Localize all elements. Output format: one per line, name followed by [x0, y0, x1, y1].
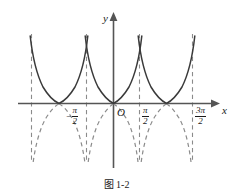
y-axis: [110, 12, 118, 168]
figure-container: y x O − π 2 π 2 3π 2 图 1-2: [0, 0, 233, 194]
x-axis-label: x: [222, 105, 227, 116]
fraction-numerator: π: [72, 106, 79, 117]
tan-negative-dashed-curves: [33, 104, 191, 162]
abs-tan-solid-curves: [30, 36, 195, 103]
fraction-denominator: 2: [195, 117, 206, 127]
fraction-denominator: 2: [72, 117, 79, 127]
fraction-denominator: 2: [142, 117, 149, 127]
solid-branch-3: [85, 36, 113, 103]
fraction-neg-half-pi: π 2: [72, 106, 79, 127]
origin-label: O: [117, 107, 125, 118]
fraction-three-half-pi: 3π 2: [195, 106, 206, 127]
dashed-branch-3: [88, 104, 113, 162]
y-axis-label: y: [103, 13, 108, 24]
minus-sign: −: [66, 112, 71, 121]
figure-caption: 图 1-2: [0, 176, 233, 191]
dashed-branch-1: [33, 104, 59, 162]
dashed-branch-6: [167, 104, 192, 162]
solid-branch-1: [30, 36, 59, 103]
fraction-numerator: 3π: [195, 106, 206, 117]
solid-branch-2: [59, 36, 88, 103]
tick-label-three-half-pi: 3π 2: [195, 106, 206, 127]
fraction-pos-half-pi: π 2: [142, 106, 149, 127]
tick-label-pos-half-pi: π 2: [142, 106, 149, 127]
tick-label-neg-half-pi: − π 2: [66, 106, 78, 127]
tangent-plot: [0, 0, 233, 194]
x-axis-arrow-icon: [211, 100, 220, 108]
solid-branch-6: [167, 36, 195, 103]
solid-branch-5: [138, 36, 166, 103]
y-axis-arrow-icon: [110, 12, 118, 21]
asymptote-group: [32, 34, 193, 163]
fraction-numerator: π: [142, 106, 149, 117]
solid-branch-4: [114, 36, 142, 103]
